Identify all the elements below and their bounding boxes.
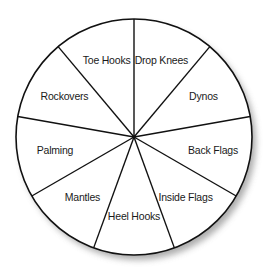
wedge-label: Palming xyxy=(37,144,74,156)
skills-wheel: Drop KneesDynosBack FlagsInside FlagsHee… xyxy=(0,0,264,272)
wedge-label: Back Flags xyxy=(188,144,238,156)
wedge-label: Rockovers xyxy=(41,90,89,102)
center-hub xyxy=(132,135,136,139)
wedge-label: Toe Hooks xyxy=(83,54,131,66)
wedge-label: Mantles xyxy=(65,191,100,203)
wedge-label: Drop Knees xyxy=(135,54,188,66)
wedge-label: Inside Flags xyxy=(158,191,212,203)
wedge-label: Dynos xyxy=(189,90,218,102)
wedge-label: Heel Hooks xyxy=(108,210,160,222)
